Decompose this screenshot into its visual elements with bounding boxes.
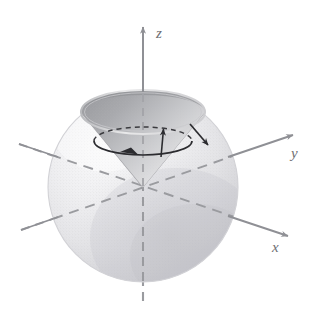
x-axis-left-tail [19,144,58,157]
axis-label-y: y [291,146,298,161]
y-axis-front-solid [228,135,293,157]
y-axis-left-tail [21,217,58,230]
axis-label-z: z [156,26,162,41]
figure-canvas: z y x [0,0,318,314]
axis-label-x: x [272,240,279,255]
diagram-svg [0,0,318,314]
x-axis-front-solid [228,216,288,236]
